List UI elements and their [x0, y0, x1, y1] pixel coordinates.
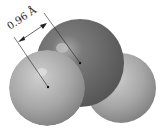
- water-molecule-diagram: 0.96 Å: [0, 0, 163, 128]
- hydrogen-atom-left: [9, 50, 85, 126]
- bond-length-label: 0.96 Å: [5, 4, 39, 32]
